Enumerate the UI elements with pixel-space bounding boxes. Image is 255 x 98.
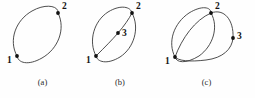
node-label-1: 1 [86, 56, 91, 66]
node-point-1 [94, 54, 98, 58]
panel-caption-c: (c) [158, 78, 255, 87]
node-label-3: 3 [237, 32, 242, 42]
node-point-3 [116, 31, 120, 35]
node-label-1: 1 [7, 56, 12, 66]
panel-caption-b: (b) [80, 78, 160, 87]
node-label-2: 2 [136, 2, 141, 12]
node-point-1 [15, 54, 19, 58]
panel-a-drawing [0, 0, 85, 70]
ellipse-outline-c-outer [175, 12, 233, 61]
node-label-2: 2 [215, 2, 220, 12]
node-point-2 [209, 11, 213, 15]
panel-b-drawing [80, 0, 160, 70]
ellipse-outline-c-inner [172, 8, 215, 62]
node-label-1: 1 [165, 57, 170, 67]
figure-panel-c: 1 2 3 (c) [158, 0, 255, 98]
ellipse-outline-a [13, 6, 61, 63]
figure-panel-group: 1 2 (a) 1 2 3 (b) 1 2 3 [0, 0, 255, 98]
node-point-2 [56, 11, 60, 15]
node-point-1 [173, 55, 177, 59]
node-label-2: 2 [62, 2, 67, 12]
figure-panel-a: 1 2 (a) [0, 0, 85, 98]
panel-caption-a: (a) [0, 78, 85, 87]
node-label-3: 3 [122, 29, 127, 39]
node-point-2 [130, 11, 134, 15]
node-point-3 [231, 36, 235, 40]
figure-panel-b: 1 2 3 (b) [80, 0, 160, 98]
